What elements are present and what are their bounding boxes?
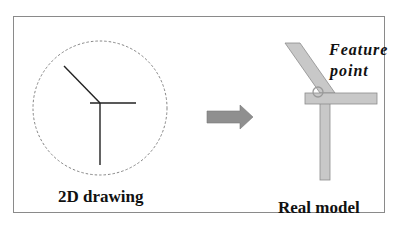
horizontal-bar xyxy=(305,93,377,104)
vertical-bar xyxy=(320,103,330,180)
right-panel-label: Real model xyxy=(278,198,360,218)
feature-annotation-line2: point xyxy=(330,61,369,80)
feature-annotation-line1: Feature xyxy=(329,40,388,59)
left-panel-label: 2D drawing xyxy=(58,187,143,207)
